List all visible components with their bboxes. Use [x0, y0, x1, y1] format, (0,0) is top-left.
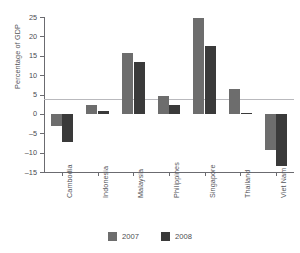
y-tick: 20	[40, 36, 44, 37]
x-tick	[276, 172, 277, 176]
bar	[62, 114, 73, 142]
legend-label: 2008	[175, 232, 192, 241]
bar	[193, 18, 204, 114]
bar	[241, 113, 252, 114]
x-tick	[62, 172, 63, 176]
category-label: Singapore	[208, 164, 217, 198]
y-tick: –15	[40, 172, 44, 173]
x-tick	[205, 172, 206, 176]
bar	[265, 114, 276, 150]
bar	[169, 105, 180, 114]
y-tick-label: 15	[29, 51, 37, 60]
bar	[276, 114, 287, 166]
category-label: Thailand	[243, 170, 252, 198]
category-label: Philippines	[172, 162, 181, 198]
x-tick	[133, 172, 134, 176]
y-tick: –10	[40, 153, 44, 154]
x-tick	[98, 172, 99, 176]
legend-label: 2007	[122, 232, 139, 241]
bar	[51, 114, 62, 126]
y-tick: 15	[40, 56, 44, 57]
y-tick: 0	[40, 114, 44, 115]
plot-area: 2520151050–5–10–15 CambodiaIndonesiaMala…	[44, 17, 294, 172]
bar	[158, 96, 169, 114]
bar	[229, 89, 240, 113]
y-tick-label: 20	[29, 32, 37, 41]
zero-baseline	[44, 99, 294, 100]
bar	[122, 53, 133, 114]
legend-item[interactable]: 2008	[161, 232, 192, 241]
y-tick-label: 5	[33, 90, 37, 99]
x-tick	[169, 172, 170, 176]
y-axis-line	[44, 17, 45, 172]
y-tick-label: 10	[29, 71, 37, 80]
y-tick: 10	[40, 75, 44, 76]
bar	[205, 46, 216, 114]
y-tick: 5	[40, 95, 44, 96]
y-axis-title: Percentage of GDP	[13, 0, 22, 117]
category-label: Indonesia	[101, 166, 110, 198]
bar-chart: Percentage of GDP 2520151050–5–10–15 Cam…	[0, 0, 300, 253]
y-tick-label: 0	[33, 109, 37, 118]
bar	[86, 105, 97, 114]
category-label: Cambodia	[65, 164, 74, 198]
x-tick	[240, 172, 241, 176]
y-tick-label: –10	[25, 148, 37, 157]
legend-swatch-icon	[161, 232, 170, 241]
category-label: Malaysia	[136, 169, 145, 198]
bar	[134, 62, 145, 114]
y-tick-label: 25	[29, 13, 37, 22]
bar	[98, 111, 109, 114]
y-tick-label: –5	[29, 129, 37, 138]
category-label: Viet Nam	[279, 168, 288, 198]
y-tick-label: –15	[25, 168, 37, 177]
legend-swatch-icon	[108, 232, 117, 241]
y-tick: 25	[40, 17, 44, 18]
legend-item[interactable]: 2007	[108, 232, 139, 241]
y-tick: –5	[40, 133, 44, 134]
chart-legend: 20072008	[0, 232, 300, 241]
